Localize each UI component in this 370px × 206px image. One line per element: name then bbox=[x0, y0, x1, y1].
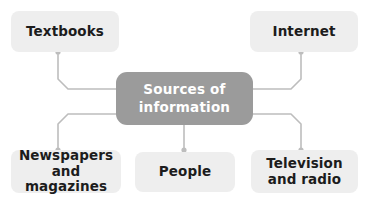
node-textbooks[interactable]: Textbooks bbox=[11, 11, 119, 52]
edge-center-to-textbooks bbox=[58, 53, 116, 89]
node-center-topic[interactable]: Sources of information bbox=[116, 72, 253, 125]
mind-map-diagram: Textbooks Internet Sources of informatio… bbox=[0, 0, 370, 206]
node-center-topic-label: Sources of information bbox=[135, 81, 234, 116]
node-people[interactable]: People bbox=[135, 152, 235, 192]
node-people-label: People bbox=[155, 164, 215, 180]
edge-center-to-television bbox=[253, 114, 301, 149]
node-internet[interactable]: Internet bbox=[250, 11, 358, 52]
node-textbooks-label: Textbooks bbox=[22, 24, 108, 40]
edge-center-to-internet bbox=[253, 53, 301, 89]
node-newspapers-label: Newspapers and magazines bbox=[11, 148, 121, 196]
node-newspapers[interactable]: Newspapers and magazines bbox=[11, 150, 121, 193]
edge-center-to-newspapers bbox=[58, 114, 116, 149]
node-internet-label: Internet bbox=[269, 24, 340, 40]
node-television[interactable]: Television and radio bbox=[251, 150, 358, 193]
node-television-label: Television and radio bbox=[262, 156, 346, 188]
